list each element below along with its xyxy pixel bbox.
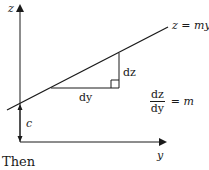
slope-fraction: dz dy (150, 88, 165, 115)
equals-m: = m (171, 95, 194, 108)
run-label: dy (79, 92, 92, 103)
y-axis-label: y (157, 150, 163, 161)
fraction-numerator: dz (150, 88, 165, 102)
intercept-label: c (26, 118, 32, 129)
z-axis-arrow-icon (16, 4, 24, 12)
intercept-arrow-down-icon (18, 136, 23, 142)
z-axis-label: z (8, 3, 14, 14)
line-equation-label: z = my · (172, 20, 209, 31)
y-axis-arrow-icon (159, 138, 167, 146)
rise-label: dz (123, 67, 136, 78)
caption-text: Then (2, 154, 35, 169)
fraction-denominator: dy (151, 102, 164, 115)
slope-equation: dz dy = m (150, 88, 194, 115)
right-angle-marker-icon (111, 80, 119, 88)
